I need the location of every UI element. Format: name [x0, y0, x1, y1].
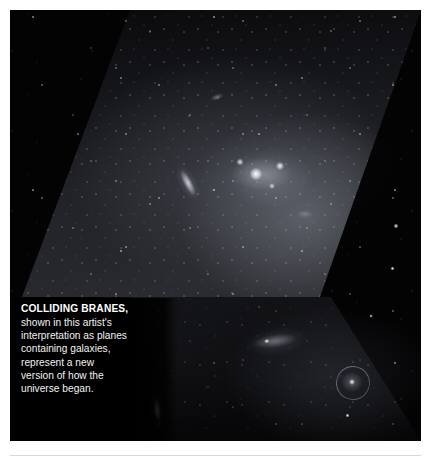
- caption-line-4: represent a new: [21, 356, 171, 369]
- caption-headline: COLLIDING BRANES,: [21, 302, 171, 315]
- caption-body: shown in this artist's interpretation as…: [21, 316, 171, 395]
- figure-caption: COLLIDING BRANES, shown in this artist's…: [21, 302, 171, 395]
- caption-line-1: shown in this artist's: [21, 316, 171, 329]
- page-divider-rule: [10, 455, 421, 456]
- caption-line-2: interpretation as planes: [21, 329, 171, 342]
- caption-line-6: universe began.: [21, 382, 171, 395]
- caption-line-3: containing galaxies,: [21, 342, 171, 355]
- astronomy-figure: COLLIDING BRANES, shown in this artist's…: [10, 10, 421, 441]
- caption-line-5: version of how the: [21, 369, 171, 382]
- page-canvas: COLLIDING BRANES, shown in this artist's…: [0, 0, 435, 463]
